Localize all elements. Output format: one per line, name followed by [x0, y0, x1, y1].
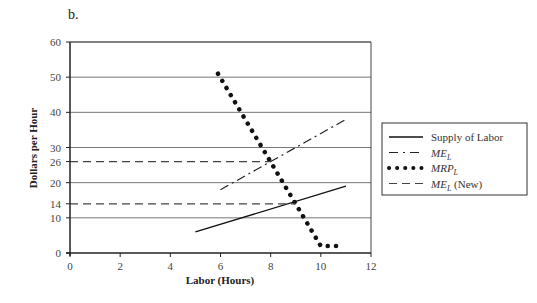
legend-label: Supply of Labor [431, 131, 503, 143]
x-tick-label: 12 [366, 260, 377, 272]
chart: 01014202630405060024681012 Labor (Hours)… [0, 0, 537, 303]
x-axis-title: Labor (Hours) [186, 274, 255, 287]
y-tick-label: 14 [50, 198, 62, 210]
x-tick-label: 8 [268, 260, 274, 272]
x-tick-label: 0 [67, 260, 73, 272]
gridlines [70, 42, 371, 218]
x-tick-label: 4 [168, 260, 174, 272]
x-tick-label: 10 [315, 260, 327, 272]
y-tick-label: 10 [50, 212, 62, 224]
tick-labels: 01014202630405060024681012 [50, 36, 377, 272]
legend: Supply of LaborMELMRPLMEL (New) [382, 123, 527, 195]
y-axis-title: Dollars per Hour [27, 108, 39, 189]
y-tick-label: 20 [50, 177, 62, 189]
y-tick-label: 40 [50, 106, 62, 118]
x-tick-label: 2 [117, 260, 123, 272]
x-tick-label: 6 [218, 260, 224, 272]
y-tick-label: 50 [50, 71, 62, 83]
y-tick-label: 0 [56, 247, 62, 259]
series-layer [70, 74, 346, 246]
series-line [195, 186, 346, 232]
y-tick-label: 26 [50, 156, 62, 168]
y-tick-label: 30 [50, 142, 62, 154]
y-tick-label: 60 [50, 36, 62, 48]
